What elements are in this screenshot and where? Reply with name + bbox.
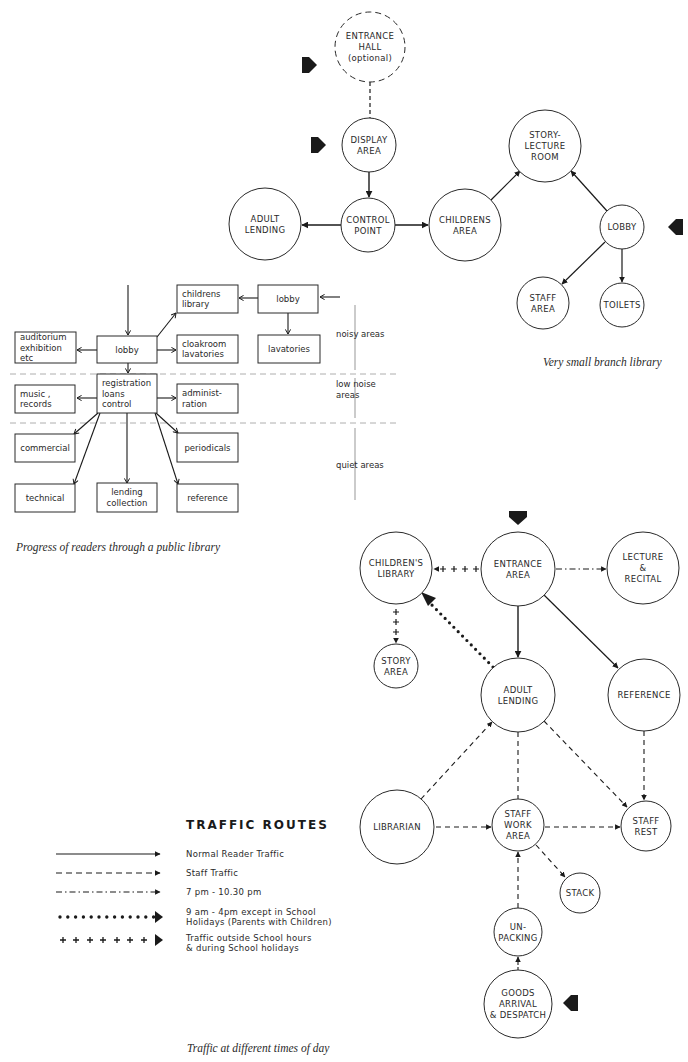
- node-label: ARRIVAL: [499, 999, 537, 1009]
- node-label: LOBBY: [607, 222, 637, 232]
- node-label: STAFF: [632, 816, 659, 826]
- caption-traffic-times: Traffic at different times of day: [187, 1042, 329, 1054]
- arrow-entrance-reference: [544, 595, 618, 668]
- node-label: REST: [634, 827, 658, 837]
- zone-label: quiet areas: [336, 460, 384, 470]
- legend-label-normal: Normal Reader Traffic: [186, 849, 284, 859]
- zone-label: low noise: [336, 379, 376, 389]
- node-label: LENDING: [498, 696, 539, 706]
- node-label: STAFF: [529, 293, 556, 303]
- node-label: AREA: [506, 570, 530, 580]
- d3-node-stack: STACK: [560, 873, 600, 913]
- box-label: collection: [107, 498, 148, 508]
- node-label: WORK: [504, 820, 532, 830]
- node-label: POINT: [354, 226, 382, 236]
- legend-label-daytime-line2: Holidays (Parents with Children): [186, 917, 332, 927]
- d2-box-administration: administ-ration: [177, 384, 238, 413]
- d3-node-story-area: STORYAREA: [374, 644, 418, 688]
- legend-label-evening: 7 pm - 10.30 pm: [186, 887, 261, 897]
- d1-node-entrance-hall: ENTRANCEHALL(optional): [335, 12, 405, 82]
- d3-node-librarian: LIBRARIAN: [360, 790, 434, 864]
- box-label: etc: [20, 353, 34, 363]
- arrow-childrens-story: [491, 171, 520, 200]
- box-label: loans: [102, 389, 125, 399]
- d3-node-reference: REFERENCE: [608, 659, 680, 731]
- d2-box-reference: reference: [177, 484, 238, 512]
- box-label: exhibition: [20, 343, 62, 353]
- box-label: music ,: [20, 389, 51, 399]
- node-label: STAFF: [504, 809, 531, 819]
- d3-node-childrens-library: CHILDREN'SLIBRARY: [360, 532, 432, 604]
- diagram-branch-library: ENTRANCEHALL(optional)DISPLAYAREACONTROL…: [229, 12, 683, 329]
- box-label: reference: [187, 493, 228, 503]
- d3-node-staff-work-area: STAFFWORKAREA: [492, 799, 544, 851]
- node-label: CONTROL: [346, 215, 390, 225]
- node-label: &: [640, 563, 647, 573]
- d3-node-entrance-area: ENTRANCEAREA: [481, 532, 555, 606]
- d1-node-childrens-area: CHILDRENSAREA: [429, 189, 501, 261]
- box-label: auditorium: [20, 332, 66, 342]
- node-label: UN-: [510, 922, 527, 932]
- d2-box-periodicals: periodicals: [177, 433, 238, 462]
- d1-nodes: ENTRANCEHALL(optional)DISPLAYAREACONTROL…: [229, 12, 644, 329]
- arrow-registration-commercial: [74, 413, 98, 434]
- arrow-adult-childrens-daytime: [426, 599, 493, 667]
- arrow-lobby-childrens: [157, 313, 176, 337]
- legend-label-outside-line2: & during School holidays: [186, 943, 299, 953]
- node-label: CHILDRENS: [439, 215, 491, 225]
- node-label: DISPLAY: [351, 135, 388, 145]
- diagram-reader-progress: auditoriumexhibitionetclobbychildrenslib…: [10, 285, 400, 512]
- library-diagrams-canvas: ENTRANCEHALL(optional)DISPLAYAREACONTROL…: [0, 0, 688, 1062]
- box-label: lending: [111, 487, 143, 497]
- plus-marks-entrance-childrens: [440, 566, 479, 572]
- entry-arrow-icon: [302, 57, 317, 73]
- box-label: records: [20, 399, 52, 409]
- entry-arrow-icon: [311, 137, 326, 153]
- box-label: periodicals: [184, 443, 231, 453]
- node-label: (optional): [348, 53, 392, 63]
- node-label: & DESPATCH: [490, 1010, 546, 1020]
- d1-node-control-point: CONTROLPOINT: [341, 198, 395, 252]
- node-label: AREA: [384, 667, 408, 677]
- d2-box-technical: technical: [15, 484, 75, 512]
- caption-reader-progress: Progress of readers through a public lib…: [16, 541, 220, 553]
- node-label: LECTURE: [623, 552, 664, 562]
- legend-label-outside-hours: Traffic outside School hours& during Sch…: [186, 933, 312, 953]
- arrow-lobby-staff: [562, 242, 605, 284]
- node-label: LENDING: [245, 225, 286, 235]
- d1-node-story-lecture-room: STORY-LECTUREROOM: [509, 110, 581, 182]
- d2-box-lavatories: lavatories: [258, 335, 320, 363]
- legend-label-daytime: 9 am - 4pm except in SchoolHolidays (Par…: [186, 907, 332, 927]
- d2-box-registration: registrationloanscontrol: [97, 374, 157, 413]
- node-label: STORY: [381, 656, 411, 666]
- entry-arrow-icon: [509, 511, 527, 525]
- node-label: ENTRANCE: [346, 31, 394, 41]
- legend-label-outside-line1: Traffic outside School hours: [186, 933, 312, 943]
- box-label: ration: [182, 399, 207, 409]
- node-label: PACKING: [498, 933, 537, 943]
- box-label: library: [182, 299, 209, 309]
- node-label: RECITAL: [625, 574, 662, 584]
- node-label: AREA: [531, 304, 555, 314]
- entry-arrow-icon: [563, 995, 578, 1011]
- box-label: administ-: [182, 388, 222, 398]
- node-label: REFERENCE: [617, 690, 670, 700]
- d1-node-lobby: LOBBY: [600, 205, 644, 249]
- d3-node-unpacking: UN-PACKING: [494, 908, 542, 956]
- box-label: lavatories: [268, 344, 310, 354]
- arrow-staffwork-stack: [536, 845, 565, 877]
- legend-label-normal-line: Normal Reader Traffic: [186, 849, 284, 859]
- d2-box-auditorium: auditoriumexhibitionetc: [15, 332, 76, 363]
- d2-box-music: music ,records: [15, 385, 75, 413]
- legend-swatch-plus: [60, 937, 147, 943]
- node-label: LECTURE: [525, 141, 566, 151]
- arrow-librarian-adult: [421, 722, 492, 799]
- box-label: lobby: [115, 345, 138, 355]
- legend-label-staff: Staff Traffic: [186, 868, 238, 878]
- d2-zone-labels: noisy areaslow noiseareasquiet areas: [336, 329, 385, 470]
- arrowhead-adult-childrens: [421, 592, 436, 606]
- legend-label-evening-line: 7 pm - 10.30 pm: [186, 887, 261, 897]
- box-label: commercial: [20, 443, 70, 453]
- node-label: TOILETS: [602, 300, 640, 310]
- d2-box-lending-collection: lendingcollection: [97, 483, 157, 512]
